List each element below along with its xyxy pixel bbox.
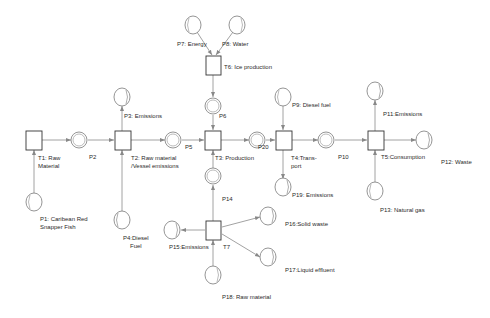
- label-p15: P15:Emissions: [169, 243, 209, 251]
- place-p18: [205, 266, 221, 284]
- transition-t1: [26, 131, 42, 150]
- label-p6: P6: [219, 112, 226, 120]
- label-p4: P4:Diesel Fuel: [123, 234, 149, 250]
- place-p10: [318, 132, 334, 148]
- place-p7: [185, 16, 201, 34]
- place-p19: [275, 178, 291, 196]
- place-p9: [275, 88, 291, 106]
- label-p11: P11:Emissions: [383, 110, 422, 118]
- label-p2: P2: [89, 153, 96, 161]
- label-p8: P8: Water: [222, 40, 248, 48]
- place-p16: [260, 207, 276, 225]
- arc-t7-p16: [222, 217, 260, 227]
- label-t5: T5:Consumption: [381, 153, 425, 161]
- label-t7: T7: [223, 243, 230, 251]
- place-p15: [164, 221, 180, 239]
- label-p3: P3: Emissions: [124, 112, 162, 120]
- transition-t5: [368, 131, 384, 150]
- label-t3: T3: Production: [215, 154, 254, 162]
- label-t1: T1: Raw Material: [38, 154, 60, 170]
- label-t2: T2: Raw material /Vessel emissions: [131, 154, 179, 170]
- label-t4: T4:Trans- port: [291, 154, 317, 170]
- label-p9: P9: Diesel fuel: [292, 101, 331, 109]
- place-p2: [71, 132, 87, 148]
- place-p14: [205, 168, 221, 184]
- transition-t3: [205, 131, 221, 150]
- place-p3: [114, 88, 130, 106]
- label-p10: P10: [338, 153, 349, 161]
- label-p1: P1: Caribean Red Snapper Fish: [40, 215, 88, 231]
- place-p8: [229, 16, 245, 34]
- label-p18: P18: Raw material: [222, 293, 271, 301]
- place-p13: [367, 182, 383, 200]
- place-p5: [165, 132, 181, 148]
- place-p12: [416, 131, 432, 149]
- label-p19: P19: Emissions: [292, 191, 333, 199]
- transition-t2: [115, 131, 131, 150]
- label-p14: P14: [222, 195, 233, 203]
- label-p20: P20: [258, 143, 269, 151]
- place-p11: [367, 82, 383, 100]
- label-p17: P17:Liquid effluent: [285, 266, 335, 274]
- place-p4: [114, 211, 130, 229]
- transition-t6: [206, 56, 221, 75]
- label-t6: T6: Ice production: [224, 63, 272, 71]
- transition-t7: [206, 221, 221, 240]
- place-p1: [26, 193, 42, 211]
- place-p17: [260, 248, 276, 266]
- label-p12: P12: Waste: [441, 158, 472, 166]
- transition-t4: [276, 131, 292, 150]
- label-p7: P7: Energy: [177, 40, 207, 48]
- label-p5: P5: [185, 143, 192, 151]
- label-p13: P13: Natural gas: [380, 206, 425, 214]
- label-p16: P16:Solid waste: [285, 220, 328, 228]
